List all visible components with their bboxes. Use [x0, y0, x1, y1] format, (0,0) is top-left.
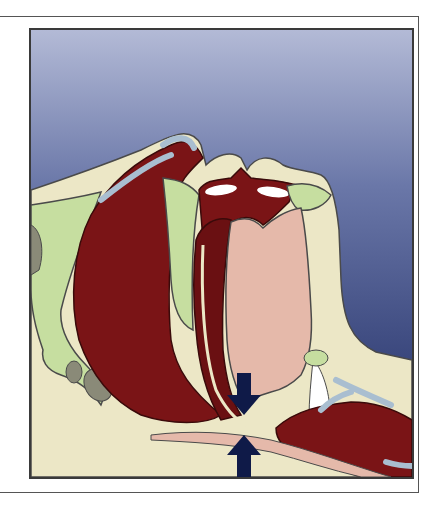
- airway-diagram-panel: [29, 28, 414, 479]
- grey-bone-1: [66, 361, 82, 383]
- epiglottis-green-cap: [304, 350, 328, 366]
- airway-cross-section-illustration: [31, 30, 412, 477]
